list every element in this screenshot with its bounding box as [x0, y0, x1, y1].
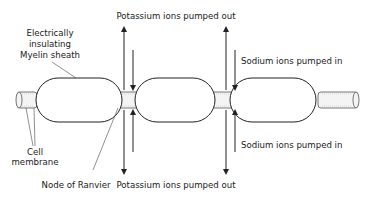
sodium-bottom-label: Sodium ions pumped in	[241, 140, 342, 150]
myelin-label-line-2: insulating	[29, 39, 71, 49]
node-of-ranvier-label: Node of Ranvier	[42, 180, 111, 190]
cell-membrane-leader-2	[34, 108, 35, 146]
potassium-top-label: Potassium ions pumped out	[116, 11, 236, 21]
cell-membrane-leader-1	[26, 108, 33, 146]
myelin-segment-3	[230, 78, 316, 122]
myelin-leader-line	[52, 62, 76, 78]
myelin-segment-1	[36, 78, 122, 122]
cell-membrane-label-line-2: membrane	[11, 157, 58, 167]
potassium-bottom-label: Potassium ions pumped out	[116, 180, 236, 190]
sodium-top-label: Sodium ions pumped in	[241, 56, 342, 66]
myelin-label-line-3: Myelin sheath	[20, 50, 80, 60]
myelin-segment-2	[135, 78, 215, 122]
axon-left-end	[16, 92, 37, 108]
cell-membrane-label-line-1: Cell	[27, 147, 43, 157]
myelin-label-line-1: Electrically	[27, 28, 74, 38]
myelinated-axon-diagram: Electrically insulating Myelin sheath Ce…	[0, 0, 377, 200]
axon-right-end	[318, 92, 359, 108]
